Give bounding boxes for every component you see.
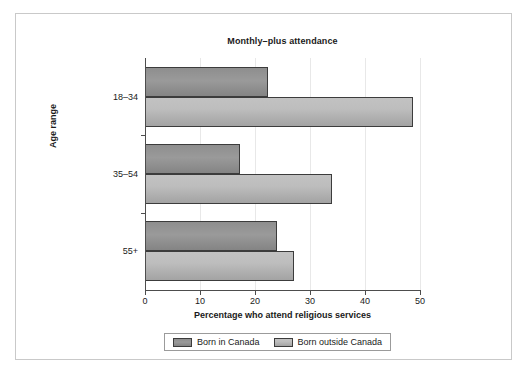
y-tick-label: 55+ [123,246,138,256]
legend-swatch-icon [173,338,192,347]
x-tick [310,291,311,295]
y-tick [141,213,146,214]
gridline [420,58,421,290]
bar-55-series1 [145,251,294,281]
legend-entry: Born in Canada [173,337,260,347]
y-tick [141,135,146,136]
x-tick-label: 50 [415,296,425,306]
y-tick-label: 35–54 [113,169,138,179]
bar-1834-series1 [145,97,413,127]
bar-1834-series0 [145,67,268,97]
chart-figure: Monthly–plus attendance 01020304050 18–3… [0,0,528,386]
x-tick [200,291,201,295]
x-axis-title: Percentage who attend religious services [145,310,420,320]
gridline [365,58,366,290]
bar-55-series0 [145,221,277,251]
legend-swatch-icon [274,338,293,347]
y-axis-title: Age range [48,104,58,148]
x-tick-label: 0 [142,296,147,306]
x-tick [420,291,421,295]
legend-label: Born in Canada [197,337,260,347]
x-tick-label: 20 [250,296,260,306]
y-tick-label: 18–34 [113,92,138,102]
x-tick [365,291,366,295]
x-tick [255,291,256,295]
legend-label: Born outside Canada [298,337,383,347]
y-axis-line [145,58,146,291]
x-axis-line [145,290,421,291]
plot-area [145,58,420,290]
bar-3554-series0 [145,144,240,174]
x-tick-label: 10 [195,296,205,306]
x-tick-label: 30 [305,296,315,306]
chart-legend: Born in CanadaBorn outside Canada [164,333,391,351]
bar-3554-series1 [145,174,332,204]
x-tick [145,291,146,295]
chart-title: Monthly–plus attendance [145,36,420,46]
legend-entry: Born outside Canada [274,337,383,347]
y-axis-labels: 18–3435–5455+ [70,0,138,386]
x-tick-label: 40 [360,296,370,306]
